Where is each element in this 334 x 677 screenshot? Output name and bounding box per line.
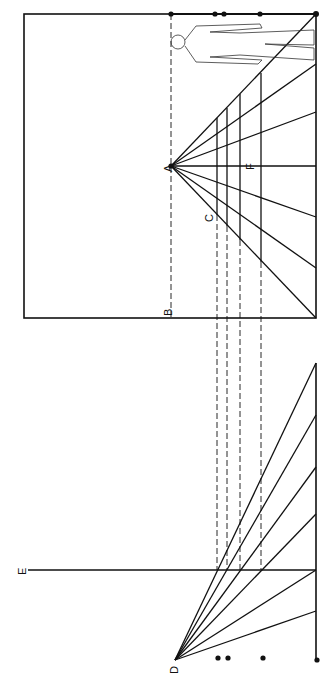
human-figure	[171, 24, 314, 64]
label-C: C	[203, 214, 215, 222]
label-B: B	[162, 309, 174, 316]
label-D: D	[168, 666, 180, 674]
perspective-fan-D	[175, 363, 316, 660]
label-A: A	[162, 164, 174, 172]
transfer-lines	[217, 215, 261, 570]
label-F: F	[244, 163, 256, 170]
perspective-diagram: A B C F E D	[0, 0, 334, 677]
label-E: E	[16, 568, 28, 575]
